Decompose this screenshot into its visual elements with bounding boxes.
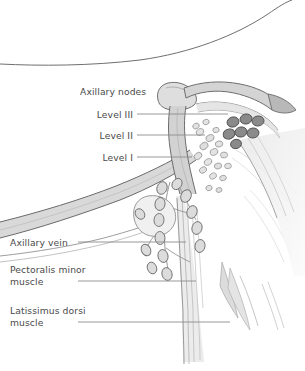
label-level-1: Level I [33,152,133,164]
label-level-2: Level II [33,130,133,142]
label-pectoralis-minor-line1: Pectoralis minor [10,264,86,276]
label-axillary-vein: Axillary vein [10,237,68,249]
pectoralis-minor-muscle [176,196,204,364]
label-latissimus-dorsi-line2: muscle [10,317,43,329]
label-level-3: Level III [33,109,133,121]
label-axillary-nodes: Axillary nodes [80,86,146,98]
label-pectoralis-minor-line2: muscle [10,276,43,288]
anatomical-figure: Axillary nodes Level III Level II Level … [0,0,305,371]
label-latissimus-dorsi-line1: Latissimus dorsi [10,305,86,317]
shoulder-contour [0,0,292,65]
